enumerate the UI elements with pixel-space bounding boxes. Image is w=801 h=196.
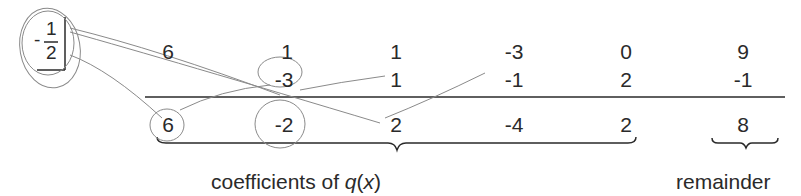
quotient-brace (157, 137, 636, 150)
product-value: 2 (606, 69, 646, 91)
remainder-value: 8 (723, 114, 763, 136)
quotient-var: q (345, 170, 357, 193)
divisor-box (37, 17, 65, 70)
quotient-coef: 2 (376, 114, 416, 136)
quotient-coef: 6 (148, 114, 188, 136)
product-value: 1 (376, 69, 416, 91)
dividend-coef: -3 (494, 41, 534, 63)
dividend-coef: 0 (606, 41, 646, 63)
product-value: -3 (264, 69, 304, 91)
dividend-coef: 6 (148, 41, 188, 63)
dividend-coef: 9 (723, 41, 763, 63)
dividend-coef: 1 (267, 41, 307, 63)
quotient-coef: 2 (606, 114, 646, 136)
remainder-brace (712, 138, 778, 148)
paren-open: ( (357, 170, 364, 193)
remainder-label: remainder (676, 170, 771, 194)
product-value: -1 (494, 69, 534, 91)
paren-close: ) (374, 170, 381, 193)
product-value: -1 (723, 69, 763, 91)
quotient-label: coefficients of q(x) (211, 170, 381, 194)
quotient-label-text: coefficients of (211, 170, 345, 193)
diagram-lines (0, 0, 801, 196)
quotient-coef: -2 (264, 114, 304, 136)
quotient-coef: -4 (494, 114, 534, 136)
quotient-arg: x (364, 170, 375, 193)
dividend-coef: 1 (376, 41, 416, 63)
